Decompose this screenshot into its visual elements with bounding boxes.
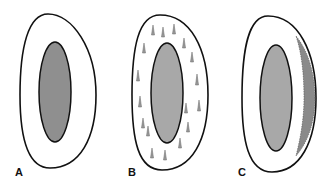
panel-label-c: C [238, 166, 246, 178]
inner-ellipse-c [260, 45, 292, 151]
panel-b [132, 15, 208, 170]
inner-ellipse-a [39, 42, 71, 142]
panel-label-b: B [128, 166, 136, 178]
panel-c [242, 16, 316, 172]
panel-a [20, 14, 96, 168]
panel-label-a: A [15, 166, 23, 178]
diagram-figure [0, 0, 331, 190]
inner-ellipse-b [151, 43, 183, 143]
